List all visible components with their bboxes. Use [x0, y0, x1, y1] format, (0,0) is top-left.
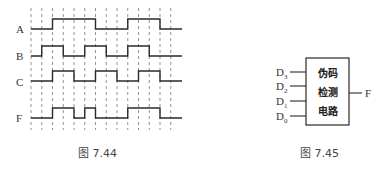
block-line-1: 伪码	[317, 67, 338, 79]
input-label-d2: D2	[276, 80, 288, 95]
signal-label-a: A	[16, 23, 24, 35]
block-line-2: 检测	[318, 86, 338, 98]
input-label-d3: D3	[276, 66, 288, 81]
block-line-3: 电路	[318, 105, 339, 117]
signal-label-b: B	[16, 50, 23, 62]
figures-canvas: A B C F 图 7.44 伪码 检测 电路 D3 D2 D1 D0 F 图 …	[0, 0, 384, 169]
signal-label-f: F	[16, 112, 22, 124]
block-diagram: 伪码 检测 电路 D3 D2 D1 D0 F 图 7.45	[276, 58, 371, 160]
output-label-f: F	[365, 87, 371, 99]
input-label-d1: D1	[276, 95, 288, 110]
figure-caption-744: 图 7.44	[78, 147, 117, 160]
figure-caption-745: 图 7.45	[300, 147, 339, 160]
waveform-b	[31, 46, 182, 56]
signal-label-c: C	[16, 76, 23, 88]
timing-diagram: A B C F 图 7.44	[16, 8, 182, 160]
input-label-d0: D0	[276, 110, 288, 125]
